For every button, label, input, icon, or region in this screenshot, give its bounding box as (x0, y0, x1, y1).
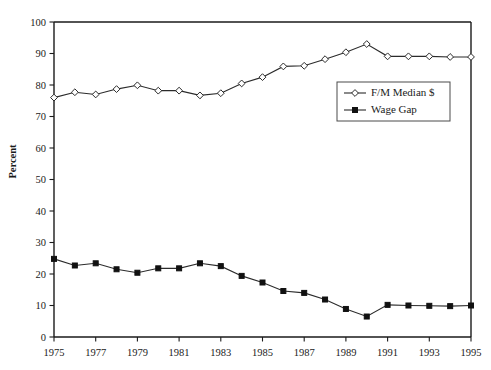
y-axis-ticks: 0102030405060708090100 (30, 17, 54, 343)
data-point-marker (134, 82, 141, 89)
x-tick-label: 1983 (210, 347, 231, 358)
data-point-marker (343, 49, 350, 56)
chart-page: 0102030405060708090100197519771979198119… (0, 0, 491, 370)
x-tick-label: 1991 (377, 347, 398, 358)
data-point-marker (114, 267, 119, 272)
data-point-marker (468, 54, 475, 61)
data-point-marker (92, 91, 99, 98)
data-point-marker (427, 303, 432, 308)
y-tick-label: 0 (41, 332, 46, 343)
data-point-marker (343, 306, 348, 311)
y-axis-title: Percent (7, 144, 18, 179)
x-tick-label: 1981 (169, 347, 190, 358)
y-tick-label: 30 (36, 237, 47, 248)
data-point-marker (385, 302, 390, 307)
data-point-marker (218, 264, 223, 269)
data-point-marker (406, 303, 411, 308)
data-point-marker (280, 63, 287, 70)
y-tick-label: 80 (36, 80, 47, 91)
x-tick-label: 1985 (252, 347, 273, 358)
x-tick-label: 1989 (335, 347, 356, 358)
x-tick-label: 1987 (294, 347, 315, 358)
data-point-marker (217, 90, 224, 97)
series-2 (52, 256, 474, 319)
y-tick-label: 50 (36, 174, 47, 185)
data-point-marker (239, 273, 244, 278)
legend-label-2: Wage Gap (371, 103, 417, 115)
data-point-marker (469, 303, 474, 308)
data-point-marker (384, 53, 391, 60)
data-point-marker (72, 263, 77, 268)
x-tick-label: 1995 (461, 347, 482, 358)
chart-legend: F/M Median $Wage Gap (337, 82, 450, 121)
data-point-marker (177, 266, 182, 271)
data-point-marker (353, 108, 358, 113)
data-point-marker (93, 261, 98, 266)
data-point-marker (323, 297, 328, 302)
data-point-marker (302, 290, 307, 295)
data-point-marker (113, 86, 120, 93)
data-point-marker (301, 62, 308, 69)
data-point-marker (281, 289, 286, 294)
data-point-marker (447, 54, 454, 61)
line-chart: 0102030405060708090100197519771979198119… (0, 0, 491, 370)
data-point-marker (71, 89, 78, 96)
y-tick-label: 70 (36, 111, 47, 122)
data-point-marker (155, 87, 162, 94)
data-point-marker (426, 53, 433, 60)
data-point-marker (322, 56, 329, 63)
data-point-marker (176, 87, 183, 94)
data-point-marker (51, 94, 58, 101)
x-tick-label: 1975 (44, 347, 65, 358)
data-point-marker (260, 280, 265, 285)
data-point-marker (363, 41, 370, 48)
data-point-marker (197, 261, 202, 266)
y-tick-label: 90 (36, 48, 47, 59)
y-tick-label: 40 (36, 206, 47, 217)
x-tick-label: 1977 (85, 347, 106, 358)
data-point-marker (364, 314, 369, 319)
x-axis-ticks: 1975197719791981198319851987198919911993… (44, 337, 482, 358)
data-point-marker (156, 266, 161, 271)
y-tick-label: 100 (30, 17, 46, 28)
data-point-marker (52, 256, 57, 261)
data-point-marker (197, 92, 204, 99)
legend-label-1: F/M Median $ (371, 86, 435, 98)
data-point-marker (238, 80, 245, 87)
x-tick-label: 1993 (419, 347, 440, 358)
x-tick-label: 1979 (127, 347, 148, 358)
data-point-marker (405, 53, 412, 60)
y-tick-label: 60 (36, 143, 47, 154)
y-tick-label: 20 (36, 269, 47, 280)
data-point-marker (448, 304, 453, 309)
y-tick-label: 10 (36, 300, 47, 311)
data-point-marker (259, 74, 266, 81)
data-point-marker (135, 270, 140, 275)
